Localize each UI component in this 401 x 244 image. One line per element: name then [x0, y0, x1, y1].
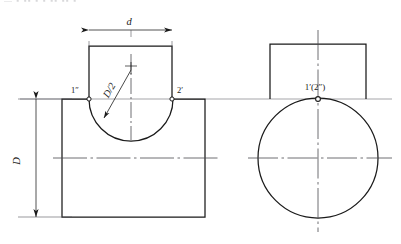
point-2-prime-label: 2′ — [177, 85, 183, 95]
clipped-header-text: — ▪ ▪▪ ▪ ▪ ▪▪ ▪▪ ▪ — [4, 0, 78, 5]
side-view-tangent-point-marker — [316, 97, 321, 102]
point-1-double-prime-label: 1″ — [71, 85, 79, 95]
engineering-drawing: d D D/2 1″ 2′ 1′(2″) — [0, 0, 401, 244]
dimension-d-label: d — [126, 16, 132, 27]
side-view — [248, 30, 392, 232]
front-view-point-2-marker — [170, 97, 174, 101]
dimension-d — [89, 30, 172, 50]
front-view — [53, 46, 220, 217]
dimension-D-label: D — [11, 157, 22, 166]
front-view-point-1-marker — [87, 97, 91, 101]
radius-callout-label: D/2 — [100, 81, 118, 100]
point-1-prime-2-double-prime-label: 1′(2″) — [305, 82, 326, 92]
drawing-canvas: — ▪ ▪▪ ▪ ▪ ▪▪ ▪▪ ▪ — [0, 0, 401, 244]
